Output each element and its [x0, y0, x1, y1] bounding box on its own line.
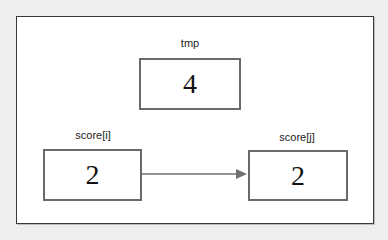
tmp-box: 4 — [139, 58, 241, 110]
score-i-box: 2 — [43, 149, 142, 201]
score-i-value: 2 — [86, 161, 100, 189]
score-j-box: 2 — [248, 150, 348, 201]
score-j-label: score[j] — [267, 131, 327, 143]
score-i-label: score[i] — [63, 129, 123, 141]
tmp-label: tmp — [165, 37, 215, 49]
score-j-value: 2 — [291, 162, 305, 190]
tmp-value: 4 — [183, 70, 197, 98]
